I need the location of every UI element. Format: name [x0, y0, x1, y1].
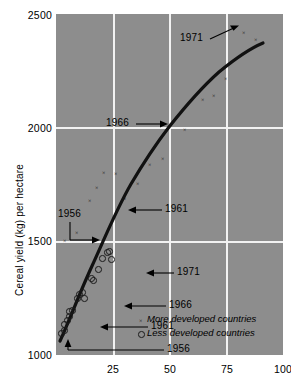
- annotation-less-developed-1966: 1966: [169, 299, 192, 310]
- data-point-more-developed: ×: [136, 181, 139, 187]
- data-point-more-developed: ×: [123, 196, 126, 202]
- data-point-less-developed: [99, 255, 106, 262]
- data-point-more-developed: ×: [88, 198, 91, 204]
- annotation-less-developed-1956: 1956: [167, 343, 190, 354]
- data-point-more-developed: ×: [75, 230, 78, 236]
- y-tick-label-2500: 2500: [4, 9, 52, 21]
- y-tick-label-2000: 2000: [4, 122, 52, 134]
- x-tick-label-100: 100: [263, 363, 291, 375]
- legend-marker-more-developed: ×: [139, 318, 142, 324]
- data-point-more-developed: ×: [242, 30, 245, 36]
- data-point-less-developed: [106, 248, 113, 255]
- data-point-less-developed: [90, 277, 97, 284]
- y-tick-label-1500: 1500: [4, 235, 52, 247]
- data-point-more-developed: ×: [183, 127, 186, 133]
- data-point-more-developed: ×: [161, 156, 164, 162]
- annotation-more-developed-1971: 1971: [180, 32, 203, 43]
- data-point-more-developed: ×: [148, 162, 151, 168]
- data-point-more-developed: ×: [63, 238, 66, 244]
- data-point-less-developed: [108, 256, 115, 263]
- annotation-less-developed-1971: 1971: [177, 266, 200, 277]
- legend-marker-less-developed: [138, 331, 145, 338]
- data-point-less-developed: [61, 327, 68, 334]
- legend-label-less-developed: Less developed countries: [147, 327, 255, 338]
- plot-area: × × × × × × × × × × × × × × × × ×: [56, 14, 283, 355]
- legend-label-more-developed: More developed countries: [147, 313, 256, 324]
- data-point-more-developed: ×: [212, 93, 215, 99]
- annotation-more-developed-1956: 1956: [58, 208, 81, 219]
- data-point-more-developed: ×: [114, 171, 117, 177]
- data-point-more-developed: ×: [95, 185, 98, 191]
- data-point-more-developed: ×: [224, 76, 227, 82]
- annotation-more-developed-1966: 1966: [106, 117, 129, 128]
- annotation-more-developed-1961: 1961: [165, 203, 188, 214]
- data-point-less-developed: [81, 295, 88, 302]
- x-tick-label-25: 25: [93, 363, 133, 375]
- data-point-less-developed: [69, 307, 76, 314]
- x-tick-label-50: 50: [150, 363, 190, 375]
- data-point-less-developed: [95, 266, 102, 273]
- data-point-more-developed: ×: [169, 122, 172, 128]
- data-point-more-developed: ×: [201, 97, 204, 103]
- x-tick-label-75: 75: [207, 363, 247, 375]
- y-tick-label-1000: 1000: [4, 349, 52, 361]
- y-axis-title: Cereal yield (kg) per hectare: [14, 164, 25, 296]
- data-point-more-developed: ×: [254, 37, 257, 43]
- data-point-more-developed: ×: [102, 170, 105, 176]
- chart-figure: Cereal yield (kg) per hectare 2500 2000 …: [0, 0, 291, 383]
